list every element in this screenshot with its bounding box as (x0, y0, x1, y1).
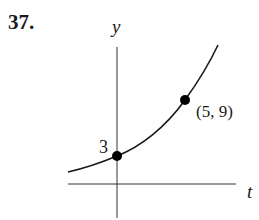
point-label: (5, 9) (196, 102, 233, 121)
point-5-9 (180, 95, 190, 105)
t-axis-label: t (247, 181, 253, 202)
exponential-graph: y t 3 (5, 9) (0, 0, 259, 220)
point-y-intercept (112, 151, 122, 161)
intercept-label: 3 (99, 137, 108, 157)
y-axis-label: y (110, 16, 121, 37)
